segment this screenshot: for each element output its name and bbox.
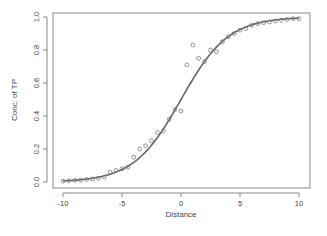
x-tick-label: 10: [295, 199, 303, 208]
y-axis-label: Conc. of TP: [10, 79, 19, 121]
data-point: [191, 43, 195, 47]
x-tick-label: 0: [179, 199, 183, 208]
data-point: [215, 50, 219, 54]
x-tick-label: 5: [238, 199, 242, 208]
y-tick-label: 0.4: [32, 111, 41, 121]
y-tick-label: 0.8: [32, 45, 41, 55]
data-point: [179, 109, 183, 113]
y-tick-label: 0.6: [32, 78, 41, 88]
data-point: [209, 48, 213, 52]
x-axis-label: Distance: [165, 210, 197, 219]
data-point: [138, 147, 142, 151]
data-point: [132, 155, 136, 159]
x-tick-label: -5: [119, 199, 126, 208]
x-tick-label: -10: [58, 199, 69, 208]
y-tick-label: 1.0: [32, 12, 41, 22]
y-tick-label: 0.0: [32, 177, 41, 187]
y-tick-label: 0.2: [32, 144, 41, 154]
x-axis: -10-50510: [58, 193, 304, 208]
fitted-curve: [63, 18, 299, 181]
data-point: [185, 63, 189, 67]
data-point: [150, 139, 154, 143]
y-axis: 0.00.20.40.60.81.0: [32, 12, 47, 187]
plot-frame: [53, 13, 310, 188]
chart: -10-50510 0.00.20.40.60.81.0 Distance Co…: [0, 0, 327, 236]
data-point: [197, 56, 201, 60]
data-point: [144, 144, 148, 148]
data-point: [156, 131, 160, 135]
